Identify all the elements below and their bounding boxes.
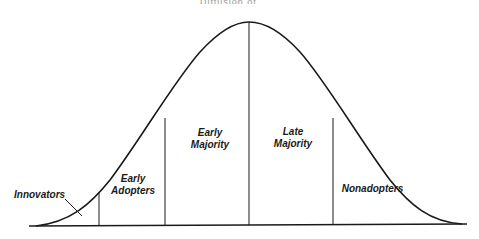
early-adopters-label: Early Adopters xyxy=(104,173,162,197)
innovators-label: Innovators xyxy=(14,189,65,201)
late-majority-label: Late Majority xyxy=(263,126,323,150)
nonadopters-label: Nonadopters xyxy=(340,183,405,195)
baseline xyxy=(29,224,467,226)
early-majority-label: Early Majority xyxy=(180,127,240,151)
bell-curve-diagram xyxy=(0,0,479,239)
